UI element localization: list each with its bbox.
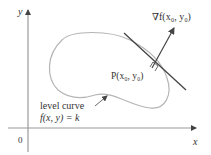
- gradient-arrow: [152, 28, 174, 68]
- level-curve-label: level curve: [40, 100, 85, 111]
- level-curve-pointer: [95, 96, 107, 106]
- level-curve-equation: f(x, y) = k: [40, 112, 80, 124]
- level-curve-diagram: y x 0 ∇f(x₀, y₀) P(x₀, y₀) level curve f…: [0, 0, 211, 155]
- level-curve: [49, 33, 169, 109]
- x-axis-label: x: [192, 136, 198, 147]
- gradient-label: ∇f(x₀, y₀): [152, 11, 191, 23]
- y-axis-label: y: [17, 6, 23, 17]
- origin-label: 0: [18, 135, 23, 145]
- point-label: P(x₀, y₀): [111, 71, 144, 82]
